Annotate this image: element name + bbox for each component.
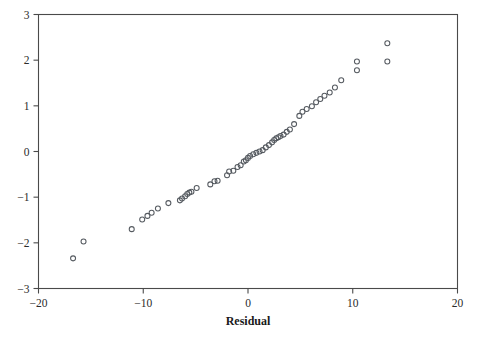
y-tick-label: −2 [17,237,29,249]
y-tick-label: 1 [24,100,30,112]
normal-probability-plot: −20−1001020 −3−2−10123 Residual [0,0,478,339]
x-axis-title: Residual [226,314,271,328]
y-tick-label: −3 [17,283,29,295]
y-tick-label: 2 [24,54,30,66]
x-tick-label: −20 [30,297,48,309]
x-tick-label: 0 [245,297,251,309]
y-tick-label: 3 [24,9,30,21]
y-tick-label: −1 [17,191,29,203]
plot-canvas: −20−1001020 −3−2−10123 Residual [0,0,478,339]
x-tick-label: 10 [347,297,359,309]
x-tick-label: 20 [452,297,464,309]
y-tick-label: 0 [24,146,30,158]
x-tick-label: −10 [134,297,152,309]
